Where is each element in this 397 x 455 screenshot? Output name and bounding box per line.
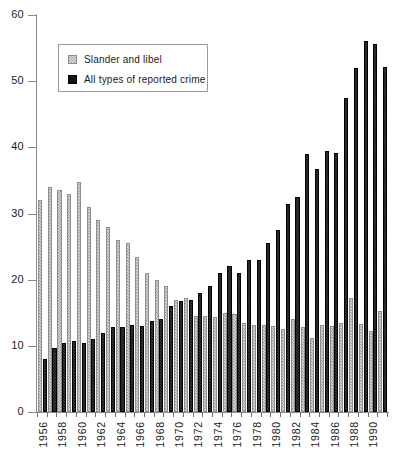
chart-legend: Slander and libel All types of reported … [58, 44, 208, 92]
bar-slander-1968 [155, 280, 159, 412]
bar-allcrime-1985 [325, 151, 329, 412]
bar-slander-1986 [330, 326, 334, 412]
x-axis-tick [231, 412, 232, 417]
bar-slander-1965 [126, 243, 130, 412]
bar-allcrime-1973 [208, 286, 212, 412]
bar-slander-1991 [378, 311, 382, 412]
bar-allcrime-1959 [72, 341, 76, 412]
bar-chart: 0102030405060 19561958196019621964196619… [0, 0, 397, 455]
bar-slander-1969 [164, 286, 168, 412]
bar-slander-1985 [320, 325, 324, 412]
x-axis-tick [300, 412, 301, 417]
bar-allcrime-1965 [130, 325, 134, 412]
x-axis-tick [154, 412, 155, 417]
bar-slander-1960 [77, 182, 81, 412]
x-axis-tick [134, 412, 135, 417]
x-axis-tick [125, 412, 126, 417]
bar-allcrime-1967 [150, 321, 154, 412]
x-axis-tick [338, 412, 339, 417]
bar-slander-1977 [242, 323, 246, 412]
bar-slander-1984 [310, 338, 314, 412]
x-axis-tick [163, 412, 164, 417]
x-axis-tick [280, 412, 281, 417]
x-axis-tick [309, 412, 310, 417]
bar-allcrime-1982 [295, 197, 299, 412]
bar-slander-1973 [203, 316, 207, 412]
bar-allcrime-1988 [354, 68, 358, 412]
bar-slander-1956 [38, 200, 42, 412]
bar-slander-1957 [48, 187, 52, 412]
x-axis-tick [183, 412, 184, 417]
bar-allcrime-1968 [159, 319, 163, 412]
bar-allcrime-1957 [52, 348, 56, 412]
bar-slander-1972 [194, 316, 198, 412]
x-axis-label-1976: 1976 [232, 421, 243, 448]
x-axis-tick [66, 412, 67, 417]
x-axis-tick [86, 412, 87, 417]
x-axis-label-1958: 1958 [57, 421, 68, 448]
bar-allcrime-1977 [247, 260, 251, 412]
x-axis-tick [348, 412, 349, 417]
x-axis-tick [47, 412, 48, 417]
x-axis-label-1988: 1988 [349, 421, 360, 448]
bar-allcrime-1966 [140, 326, 144, 412]
legend-item-allcrime: All types of reported crime [68, 74, 206, 85]
bar-slander-1958 [57, 190, 61, 412]
bar-allcrime-1972 [198, 293, 202, 412]
bar-slander-1990 [369, 331, 373, 412]
x-axis-label-1972: 1972 [193, 421, 204, 448]
x-axis-tick [387, 412, 388, 417]
x-axis-tick [173, 412, 174, 417]
bar-allcrime-1986 [334, 153, 338, 412]
x-axis-label-1960: 1960 [77, 421, 88, 448]
bar-slander-1971 [184, 298, 188, 412]
bar-slander-1974 [213, 317, 217, 412]
bar-allcrime-1980 [276, 230, 280, 412]
x-axis-label-1964: 1964 [116, 421, 127, 448]
x-axis-label-1974: 1974 [213, 421, 224, 448]
x-axis-tick [251, 412, 252, 417]
bar-slander-1978 [252, 325, 256, 412]
bar-allcrime-1981 [286, 204, 290, 412]
x-axis-label-1962: 1962 [96, 421, 107, 448]
bar-slander-1976 [232, 314, 236, 412]
bar-allcrime-1978 [257, 260, 261, 412]
legend-item-slander: Slander and libel [68, 54, 162, 65]
x-axis-label-1966: 1966 [135, 421, 146, 448]
x-axis-tick [377, 412, 378, 417]
bar-allcrime-1970 [179, 301, 183, 412]
x-axis-tick [95, 412, 96, 417]
x-axis-tick [202, 412, 203, 417]
x-axis-tick [358, 412, 359, 417]
x-axis-tick [368, 412, 369, 417]
bar-slander-1983 [301, 327, 305, 412]
x-axis-tick [319, 412, 320, 417]
bar-slander-1961 [87, 207, 91, 412]
bar-slander-1962 [96, 220, 100, 412]
bar-allcrime-1964 [120, 327, 124, 412]
legend-label-allcrime: All types of reported crime [84, 74, 206, 85]
x-axis-tick [212, 412, 213, 417]
bar-slander-1982 [291, 319, 295, 412]
bar-allcrime-1991 [383, 67, 387, 412]
x-axis-tick [193, 412, 194, 417]
bar-slander-1975 [223, 313, 227, 412]
bar-slander-1964 [116, 240, 120, 412]
bar-allcrime-1971 [189, 300, 193, 412]
x-axis-tick [241, 412, 242, 417]
bar-allcrime-1961 [91, 339, 95, 412]
x-axis-label-1982: 1982 [291, 421, 302, 448]
bar-slander-1966 [135, 257, 139, 412]
bar-allcrime-1983 [305, 154, 309, 412]
bar-allcrime-1962 [101, 333, 105, 412]
bar-allcrime-1969 [169, 306, 173, 412]
bar-slander-1989 [359, 324, 363, 412]
x-axis-tick [261, 412, 262, 417]
bar-slander-1981 [281, 329, 285, 412]
bar-allcrime-1989 [364, 41, 368, 412]
x-axis-tick [222, 412, 223, 417]
bar-slander-1959 [67, 194, 71, 412]
legend-label-slander: Slander and libel [84, 54, 162, 65]
bar-allcrime-1976 [237, 273, 241, 412]
bar-allcrime-1987 [344, 98, 348, 412]
